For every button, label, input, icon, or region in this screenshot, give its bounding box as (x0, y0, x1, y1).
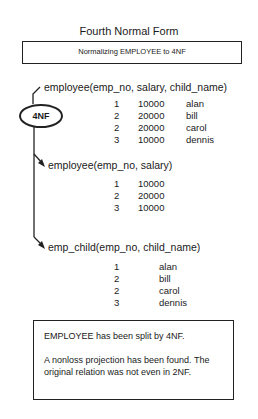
subtitle-box: Normalizing EMPLOYEE to 4NF (22, 41, 242, 64)
4nf-operation-label: 4NF (21, 111, 61, 121)
diagram-title: Fourth Normal Form (0, 25, 258, 37)
explanation-note-box: EMPLOYEE has been split by 4NF. A nonlos… (33, 320, 234, 400)
emp-child-relation-table: 1 alan 2 bill 2 carol 3 dennis (114, 261, 224, 311)
employee-relation-signature: employee(emp_no, salary) (48, 159, 172, 171)
source-relation-table: 1 10000 alan 2 20000 bill 2 20000 carol … (114, 98, 224, 148)
note-line-1: EMPLOYEE has been split by 4NF. (44, 330, 223, 342)
emp-child-relation-signature: emp_child(emp_no, child_name) (48, 241, 200, 253)
employee-relation-table: 1 10000 2 20000 3 10000 (114, 178, 224, 216)
source-relation-signature: employee(emp_no, salary, child_name) (44, 81, 227, 93)
note-line-2: A nonloss projection has been found. The… (44, 354, 223, 378)
